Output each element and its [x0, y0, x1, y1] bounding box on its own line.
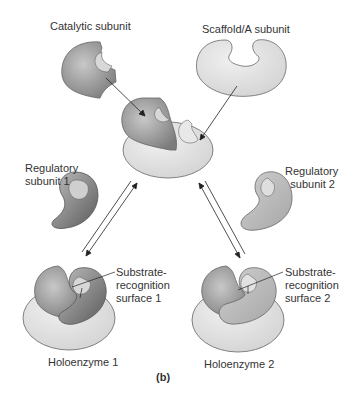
label-substrate-1-line2: recognition	[116, 279, 170, 292]
label-substrate-2-line3: surface 2	[285, 292, 330, 305]
label-substrate-2-line2: recognition	[285, 279, 339, 292]
label-regulatory-1-line1: Regulatory	[25, 162, 78, 175]
label-regulatory-2-line1: Regulatory	[285, 165, 335, 178]
equilibrium-arrows	[82, 181, 245, 258]
label-catalytic-subunit: Catalytic subunit	[50, 20, 131, 33]
label-regulatory-2-line2: subunit 2	[285, 178, 335, 191]
catalytic-subunit-shape	[62, 42, 116, 98]
label-substrate-1-line1: Substrate-	[116, 266, 167, 279]
scaffold-subunit-shape	[196, 40, 286, 97]
label-holoenzyme-1: Holoenzyme 1	[48, 356, 118, 369]
diagram-canvas	[0, 0, 353, 401]
holoenzyme-2-shape	[192, 266, 284, 352]
label-scaffold-subunit: Scaffold/A subunit	[202, 23, 290, 36]
label-regulatory-1-line2: subunit 1	[25, 175, 70, 188]
panel-label: (b)	[156, 371, 170, 383]
label-holoenzyme-2: Holoenzyme 2	[204, 358, 274, 371]
label-substrate-2-line1: Substrate-	[285, 266, 336, 279]
label-substrate-1-line3: surface 1	[116, 292, 161, 305]
core-enzyme-shape	[122, 98, 213, 178]
holoenzyme-1-shape	[23, 266, 115, 350]
